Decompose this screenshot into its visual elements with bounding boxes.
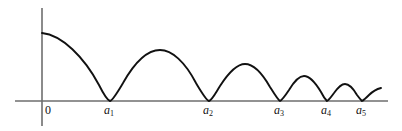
tick-label-a3: a3 — [274, 104, 284, 116]
tick-label-origin-text: 0 — [45, 103, 51, 117]
tick-label-origin: 0 — [45, 104, 51, 116]
figure-container: 0 a1 a2 a3 a4 a5 — [0, 0, 402, 131]
tick-label-a1: a1 — [104, 104, 114, 116]
tick-label-a5: a5 — [356, 104, 366, 116]
tick-label-a2-subscript: 2 — [209, 109, 213, 118]
tick-label-a1-subscript: 1 — [110, 109, 114, 118]
tick-label-a4-subscript: 4 — [327, 109, 331, 118]
tick-label-a3-subscript: 3 — [280, 109, 284, 118]
tick-label-a5-subscript: 5 — [362, 109, 366, 118]
decaying-oscillation-curve — [42, 33, 381, 101]
plot-canvas — [0, 0, 402, 131]
tick-label-a2: a2 — [203, 104, 213, 116]
tick-label-a4: a4 — [321, 104, 331, 116]
